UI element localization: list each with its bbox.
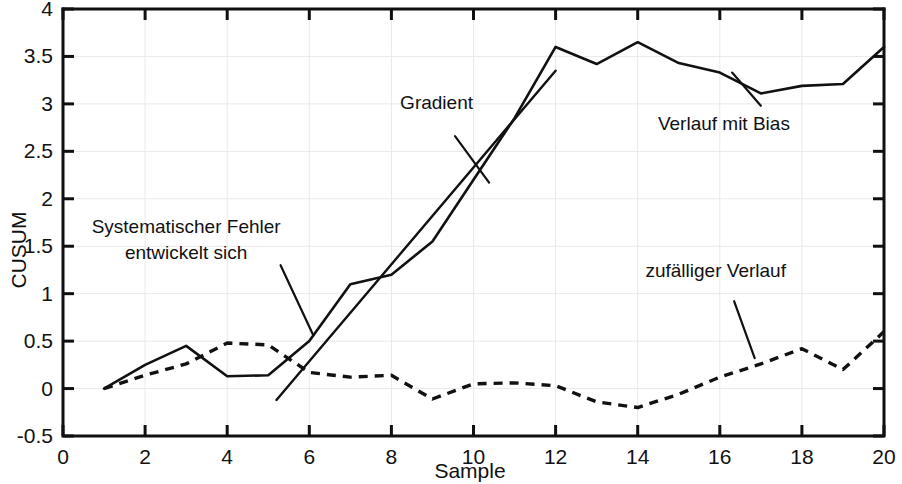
annotation-label-zufaelliger-verlauf: zufälliger Verlauf	[645, 260, 786, 281]
x-tick-label: 20	[872, 445, 895, 468]
x-tick-label: 12	[544, 445, 567, 468]
x-tick-label: 8	[386, 445, 398, 468]
annotation-leader-zufaelliger-verlauf	[734, 301, 755, 358]
cusum-chart: -0.500.511.522.533.54 02468101214161820 …	[0, 0, 902, 484]
y-tick-label: 1	[41, 282, 53, 305]
y-tick-label: 3	[41, 92, 53, 115]
annotation-label-systematischer-fehler: Systematischer Fehlerentwickelt sich	[92, 216, 282, 263]
y-tick-label: 0	[41, 377, 53, 400]
x-tick-label: 16	[708, 445, 731, 468]
annotation-label-gradient: Gradient	[400, 92, 474, 113]
y-tick-label: 3.5	[24, 44, 53, 67]
annotation-leader-gradient	[455, 136, 489, 182]
chart-container: -0.500.511.522.533.54 02468101214161820 …	[0, 0, 902, 484]
x-tick-label: 14	[626, 445, 650, 468]
annotation-leader-systematischer-fehler	[281, 265, 314, 335]
y-tick-label: 2.5	[24, 139, 53, 162]
y-tick-label: 4	[41, 0, 53, 20]
series-line-random	[104, 332, 884, 408]
trend-line-gradient	[276, 71, 555, 400]
x-axis-title: Sample	[434, 459, 505, 482]
annotation-label-verlauf-mit-bias: Verlauf mit Bias	[658, 113, 790, 134]
annotation-labels: GradientSystematischer Fehlerentwickelt …	[92, 92, 790, 281]
x-tick-label: 2	[139, 445, 151, 468]
x-tick-label: 6	[303, 445, 315, 468]
y-tick-label: -0.5	[17, 424, 53, 447]
y-tick-label: 2	[41, 187, 53, 210]
x-tick-label: 4	[221, 445, 233, 468]
y-tick-label: 0.5	[24, 329, 53, 352]
x-tick-label: 18	[790, 445, 813, 468]
y-axis-title: CUSUM	[7, 212, 30, 289]
annotation-leader-verlauf-mit-bias	[732, 73, 761, 106]
gradient-trend-line	[276, 71, 555, 400]
x-tick-label: 0	[57, 445, 69, 468]
